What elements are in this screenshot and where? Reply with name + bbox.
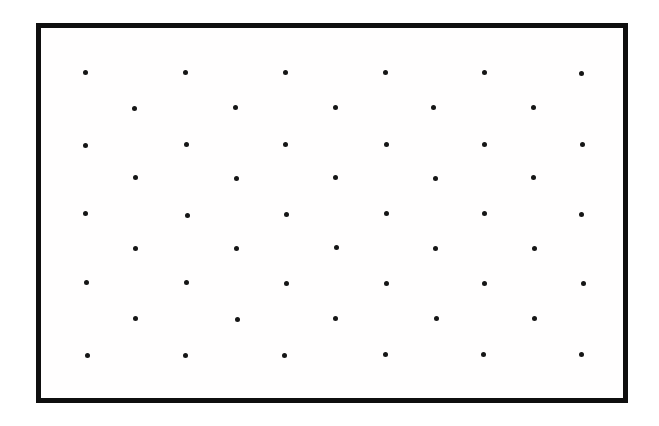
lattice-dot bbox=[234, 246, 239, 251]
lattice-dot bbox=[284, 212, 289, 217]
lattice-dot bbox=[284, 281, 289, 286]
lattice-dot bbox=[283, 142, 288, 147]
lattice-dot bbox=[532, 246, 537, 251]
lattice-dot bbox=[333, 175, 338, 180]
lattice-dot bbox=[431, 105, 436, 110]
lattice-dot bbox=[433, 176, 438, 181]
lattice-dot bbox=[579, 352, 584, 357]
lattice-dot bbox=[233, 105, 238, 110]
lattice-dot bbox=[481, 352, 486, 357]
lattice-dot bbox=[482, 281, 487, 286]
lattice-dot bbox=[83, 143, 88, 148]
lattice-figure bbox=[0, 0, 659, 426]
lattice-dot bbox=[579, 71, 584, 76]
lattice-dot bbox=[531, 105, 536, 110]
lattice-dot bbox=[433, 246, 438, 251]
lattice-dot bbox=[334, 245, 339, 250]
lattice-dot bbox=[83, 211, 88, 216]
lattice-dot bbox=[184, 142, 189, 147]
lattice-dot bbox=[383, 352, 388, 357]
lattice-dot bbox=[531, 175, 536, 180]
lattice-dot bbox=[183, 70, 188, 75]
lattice-dot bbox=[580, 142, 585, 147]
lattice-dot bbox=[85, 353, 90, 358]
lattice-dot bbox=[133, 246, 138, 251]
lattice-dot bbox=[183, 353, 188, 358]
lattice-dot bbox=[482, 70, 487, 75]
lattice-dot bbox=[283, 70, 288, 75]
lattice-dot bbox=[282, 353, 287, 358]
lattice-dot bbox=[133, 316, 138, 321]
lattice-dot bbox=[384, 211, 389, 216]
lattice-dot bbox=[83, 70, 88, 75]
lattice-dot bbox=[532, 316, 537, 321]
lattice-dot bbox=[383, 70, 388, 75]
lattice-dot bbox=[434, 316, 439, 321]
lattice-dot bbox=[333, 316, 338, 321]
lattice-dot bbox=[235, 317, 240, 322]
lattice-dot bbox=[132, 106, 137, 111]
lattice-dot bbox=[185, 213, 190, 218]
lattice-dot bbox=[579, 212, 584, 217]
lattice-dot bbox=[133, 175, 138, 180]
lattice-dot bbox=[184, 280, 189, 285]
lattice-dot bbox=[333, 105, 338, 110]
lattice-dot bbox=[234, 176, 239, 181]
lattice-dot bbox=[384, 142, 389, 147]
lattice-dot bbox=[482, 142, 487, 147]
lattice-frame bbox=[36, 23, 628, 403]
lattice-dot bbox=[84, 280, 89, 285]
lattice-dot bbox=[482, 211, 487, 216]
lattice-dot bbox=[581, 281, 586, 286]
lattice-dot bbox=[384, 281, 389, 286]
